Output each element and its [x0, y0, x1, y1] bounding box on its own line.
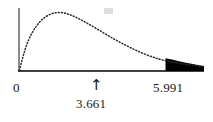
- scan-artifact: [104, 8, 113, 14]
- x-axis-label-critical-value: 5.991: [153, 80, 183, 96]
- distribution-plot: [0, 0, 213, 122]
- rejection-region-fill: [166, 58, 205, 71]
- test-statistic-arrow-icon: ↑: [90, 78, 103, 93]
- chi-square-figure: 0 5.991 ↑ 3.661: [0, 0, 213, 122]
- x-axis-label-origin: 0: [13, 80, 20, 96]
- test-statistic-label: 3.661: [76, 96, 106, 112]
- density-curve: [20, 12, 203, 70]
